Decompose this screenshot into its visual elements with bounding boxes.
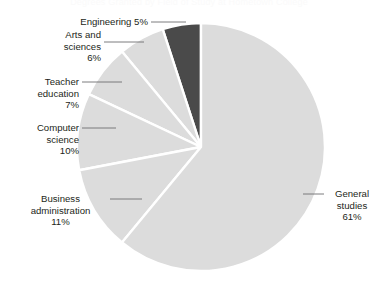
pie-slice-label: Engineering 5% bbox=[70, 16, 148, 28]
pie-slice-label: Teacher education 7% bbox=[6, 76, 79, 111]
pie-slice-label: Arts and sciences 6% bbox=[28, 29, 101, 64]
pie-chart-figure: Degrees Granted by Field of Study at Hom… bbox=[0, 0, 378, 284]
pie-slice-label: Business administration 11% bbox=[14, 193, 107, 228]
pie-slice-label: General studies 61% bbox=[327, 188, 377, 223]
pie-slice-group bbox=[77, 23, 325, 271]
pie-slice-label: Computer science 10% bbox=[6, 122, 79, 157]
